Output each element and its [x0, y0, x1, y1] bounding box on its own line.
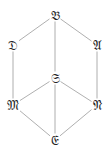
node-n: 𝔑: [92, 99, 103, 112]
node-b: 𝔅: [50, 9, 61, 22]
node-e: 𝔈: [50, 134, 60, 147]
node-m: 𝔐: [6, 99, 20, 112]
node-d: 𝔇: [7, 39, 19, 52]
node-a: 𝔄: [92, 39, 103, 52]
node-s: 𝔖: [50, 72, 61, 85]
